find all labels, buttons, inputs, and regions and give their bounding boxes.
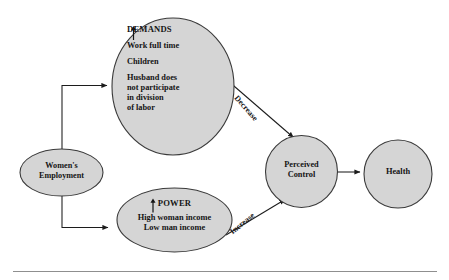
- diagram-shapes: [0, 0, 449, 280]
- node-power[interactable]: [117, 188, 232, 252]
- diagram-canvas: DEMANDS Work full time Children Husband …: [0, 0, 449, 280]
- node-health[interactable]: [364, 140, 432, 208]
- node-perceived-control[interactable]: [266, 136, 338, 208]
- edge-power-to-perceived-control: [226, 200, 285, 236]
- node-demands[interactable]: [112, 18, 234, 155]
- node-women-employment[interactable]: [20, 149, 103, 196]
- edge-demands-to-perceived-control: [227, 80, 294, 138]
